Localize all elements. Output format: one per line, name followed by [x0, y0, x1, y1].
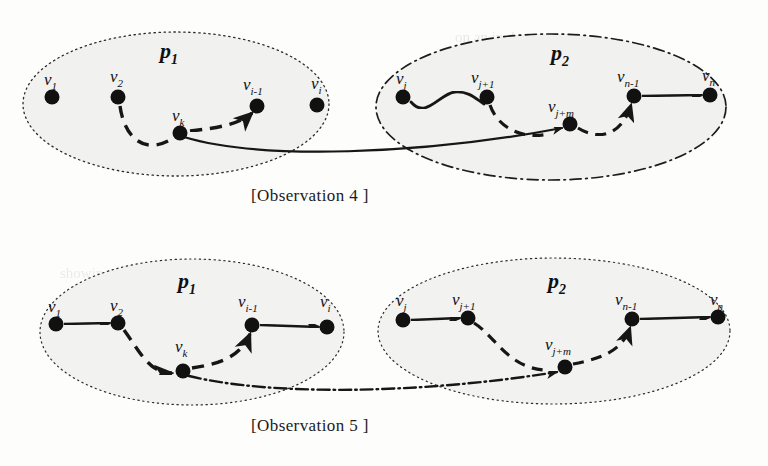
node-vi-bottom — [320, 320, 335, 335]
group-region-p1-bottom — [40, 259, 344, 405]
node-vi-top — [310, 98, 325, 113]
edge-v1-v2-bottom — [64, 323, 110, 324]
caption-observation-4: [Observation 4 ] — [251, 186, 369, 206]
observation-figure: on an in that non similar to the pages s… — [0, 0, 768, 466]
node-vjm-bottom — [558, 360, 573, 375]
node-vi1-bottom — [245, 318, 260, 333]
node-vj-bottom — [396, 313, 411, 328]
node-v2-top — [111, 90, 126, 105]
caption-observation-5: [Observation 5 ] — [251, 416, 369, 436]
node-vn1-bottom — [625, 312, 640, 327]
node-vk-bottom — [176, 364, 191, 379]
node-vn-top — [703, 88, 718, 103]
node-vj1-bottom — [461, 311, 476, 326]
node-vj-top — [396, 90, 411, 105]
node-vn1-top — [627, 89, 642, 104]
node-vj1-top — [480, 90, 495, 105]
edge-vn1-vn-top — [642, 95, 702, 96]
node-vi1-top — [250, 99, 265, 114]
